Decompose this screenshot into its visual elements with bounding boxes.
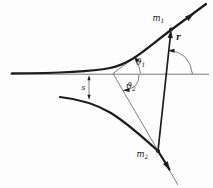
scattering-diagram: m1 m2 r s ϑ1 ϑ2	[0, 0, 213, 188]
r-vector-line	[158, 34, 171, 151]
theta2-label: ϑ2	[126, 81, 136, 92]
m2-point-dot	[156, 149, 160, 153]
theta1-label: ϑ1	[136, 57, 146, 68]
r-label: r	[176, 32, 181, 42]
m1-point-dot	[169, 28, 173, 32]
s-label: s	[82, 83, 86, 92]
impact-parameter-arrowhead-bottom	[87, 95, 90, 100]
impact-parameter-arrowhead-top	[87, 75, 90, 80]
m2-trajectory-curve	[60, 97, 170, 170]
m1-label: m1	[153, 13, 165, 24]
m2-label: m2	[137, 149, 149, 160]
r-angle-arc	[169, 51, 193, 75]
